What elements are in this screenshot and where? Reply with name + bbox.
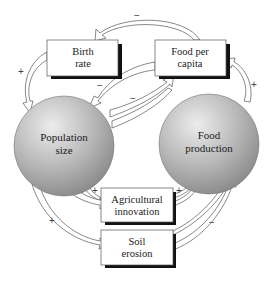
birth-rate-label-line1: Birth <box>72 46 94 57</box>
agri-innovation-label-line2: innovation <box>115 206 161 217</box>
population-label-line1: Population <box>40 131 88 143</box>
sign-mid-minus-2: − <box>130 93 136 104</box>
agri-innovation-label-line1: Agricultural <box>111 194 162 205</box>
birth-rate-label-line2: rate <box>75 58 91 69</box>
feedback-loop-diagram: Population size Food production Birth ra… <box>0 0 275 284</box>
node-population-size: Population size <box>14 96 114 196</box>
sign-agri-plus-right: + <box>176 185 182 196</box>
node-soil-erosion: Soil erosion <box>101 230 176 268</box>
node-birth-rate: Birth rate <box>47 40 122 79</box>
node-food-production: Food production <box>159 94 259 194</box>
sign-soil-minus: − <box>209 217 215 228</box>
sign-top-minus: − <box>134 10 140 21</box>
soil-erosion-label-line1: Soil <box>129 236 146 247</box>
sign-agri-plus-left: + <box>92 185 98 196</box>
sign-right-plus: + <box>251 79 257 90</box>
food-production-label-line2: production <box>185 142 233 154</box>
food-production-label-line1: Food <box>198 129 221 141</box>
soil-erosion-label-line2: erosion <box>122 248 154 259</box>
sign-soil-plus: + <box>49 215 55 226</box>
sign-left-plus: + <box>18 66 24 77</box>
sign-mid-minus-1: − <box>97 80 103 91</box>
population-label-line2: size <box>55 144 72 156</box>
food-per-capita-label-line1: Food per <box>171 46 209 57</box>
node-food-per-capita: Food per capita <box>155 40 230 79</box>
node-agricultural-innovation: Agricultural innovation <box>101 188 176 225</box>
food-per-capita-label-line2: capita <box>177 58 202 69</box>
arrow-foodpercapita-to-birthrate <box>95 20 200 41</box>
